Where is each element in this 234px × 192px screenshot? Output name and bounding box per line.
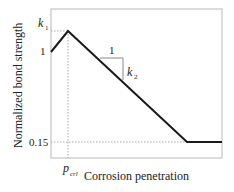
pcrl-label: p (62, 161, 69, 175)
pcrl-subscript: crl (70, 170, 78, 178)
slope-run-label: 1 (109, 44, 115, 56)
plot-frame (51, 9, 222, 158)
y-axis-title: Normalized bond strength (11, 23, 25, 148)
x-axis-title: Corrosion penetration (84, 169, 189, 183)
y-tick-015: 0.15 (29, 136, 49, 148)
k2-subscript: 2 (134, 73, 138, 81)
bond-strength-diagram: k 1 1 0.15 1 k 2 p crl Corrosion penetra… (0, 0, 234, 192)
bond-strength-curve (51, 31, 222, 142)
k1-label: k (38, 16, 44, 30)
k2-label: k (127, 65, 133, 79)
k1-subscript: 1 (45, 24, 49, 32)
slope-triangle (100, 58, 123, 80)
y-tick-1: 1 (40, 45, 46, 57)
